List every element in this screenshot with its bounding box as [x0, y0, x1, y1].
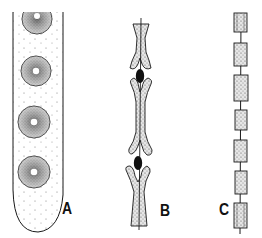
- cell-c-1: [234, 13, 247, 32]
- cell-c-7: [234, 203, 247, 228]
- panel-label-a: A: [62, 200, 72, 217]
- cell-c-4: [235, 110, 247, 130]
- segment-b-3: [126, 166, 150, 226]
- panel-a: [13, 0, 63, 232]
- cell-c-5: [234, 140, 247, 162]
- panel-c: [234, 13, 248, 234]
- panel-label-b: B: [160, 202, 170, 219]
- spore-2: [21, 56, 51, 86]
- dark-body-1: [136, 69, 144, 83]
- panel-b: [126, 18, 152, 230]
- dark-body-2: [134, 156, 142, 170]
- spore-4: [18, 156, 50, 188]
- cell-c-3: [234, 75, 248, 101]
- cell-c-2: [234, 43, 247, 66]
- cell-c-6: [235, 171, 247, 194]
- spore-3: [18, 106, 50, 138]
- panel-label-c: C: [219, 201, 229, 218]
